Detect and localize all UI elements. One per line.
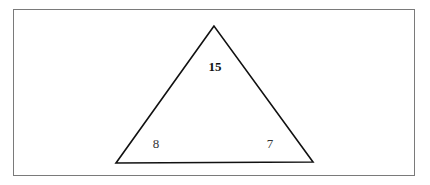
triangle-shape [0, 0, 430, 185]
label-bottom-left: 8 [153, 137, 160, 150]
triangle-outline [116, 26, 313, 163]
label-top: 15 [209, 60, 222, 73]
label-bottom-right: 7 [267, 137, 274, 150]
